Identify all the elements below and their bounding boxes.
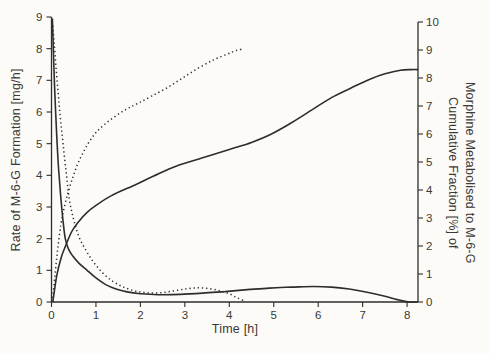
right-axis-tick-label: 8 (426, 72, 432, 84)
left-axis-tick-label: 2 (36, 233, 42, 245)
left-axis-tick-label: 0 (36, 296, 42, 308)
x-axis-tick-label: 4 (226, 309, 233, 321)
right-axis-tick-label: 5 (426, 156, 432, 168)
x-axis-tick-label: 3 (182, 309, 188, 321)
right-axis-title-line2: Morphine Metabolised to M-6-G (461, 28, 478, 318)
left-axis-tick-label: 4 (36, 169, 43, 181)
right-axis-tick-label: 6 (426, 128, 432, 140)
series-cumulative-solid (53, 70, 418, 302)
right-axis-title-line1: Cumulative Fraction [%] of (444, 28, 461, 318)
x-axis-tick-label: 0 (48, 309, 54, 321)
x-axis-tick-label: 1 (93, 309, 99, 321)
left-axis-tick-label: 1 (36, 264, 42, 276)
right-axis-tick-label: 3 (426, 212, 432, 224)
x-axis-tick-label: 8 (404, 309, 410, 321)
plot-svg: 0123456789012345678910012345678 (0, 0, 490, 354)
left-axis-tick-label: 6 (36, 106, 42, 118)
series-rate-dotted (53, 26, 245, 301)
right-axis-tick-label: 1 (426, 268, 432, 280)
left-axis-title: Rate of M-6-G Formation [mg/h] (9, 60, 25, 260)
left-axis-tick-label: 3 (36, 201, 42, 213)
left-axis-tick-label: 7 (36, 74, 42, 86)
left-axis-tick-label: 9 (36, 11, 42, 23)
left-axis-tick-label: 8 (36, 43, 42, 55)
chart-figure: 0123456789012345678910012345678 Rate of … (0, 0, 490, 354)
x-axis-tick-label: 2 (137, 309, 143, 321)
right-axis-tick-label: 7 (426, 100, 432, 112)
right-axis-tick-label: 0 (426, 296, 432, 308)
right-axis-tick-label: 9 (426, 44, 432, 56)
right-axis-title: Cumulative Fraction [%] of Morphine Meta… (444, 28, 484, 318)
left-axis-tick-label: 5 (36, 138, 42, 150)
series-rate-solid (52, 19, 417, 303)
x-axis-tick-label: 5 (271, 309, 277, 321)
series-cumulative-dotted (52, 49, 244, 302)
x-axis-tick-label: 7 (359, 309, 365, 321)
right-axis-tick-label: 10 (426, 16, 439, 28)
right-axis-tick-label: 2 (426, 240, 432, 252)
x-axis-tick-label: 6 (315, 309, 321, 321)
x-axis-title: Time [h] (150, 322, 320, 336)
right-axis-tick-label: 4 (426, 184, 433, 196)
